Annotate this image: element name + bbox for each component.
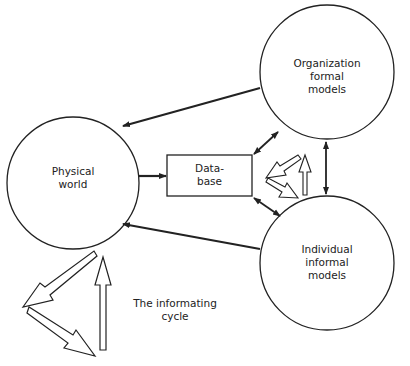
hollow-arrow-down-left	[266, 155, 301, 178]
cycle-arrow-down-right	[27, 307, 95, 356]
org-to-physical-arrow	[123, 88, 260, 126]
organization-label: Organization formal models	[277, 57, 377, 96]
ind-to-physical-arrow	[123, 224, 260, 249]
hollow-arrow-down-right	[266, 178, 298, 198]
cycle-arrow-up	[95, 257, 111, 350]
database-label: Data- base	[167, 162, 252, 188]
cycle-arrow-down-left	[23, 251, 97, 307]
db-ind-double-arrow	[254, 198, 280, 216]
informating-cycle-label: The informating cycle	[125, 297, 225, 323]
hollow-arrow-up	[299, 155, 311, 195]
physical-world-label: Physical world	[33, 165, 113, 191]
db-org-double-arrow	[254, 132, 278, 154]
individual-label: Individual informal models	[277, 243, 377, 282]
